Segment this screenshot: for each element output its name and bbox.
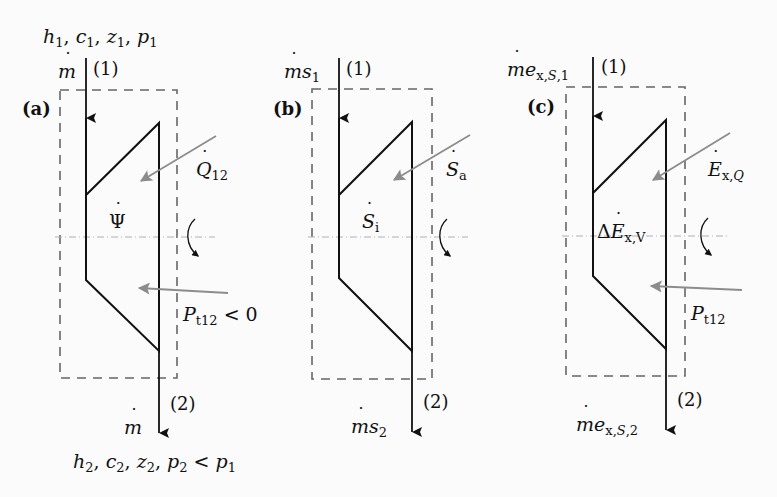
panel-a: [55, 58, 228, 433]
dissipation-label: Ψ: [109, 212, 126, 231]
outlet-mass-flow-label: m: [124, 418, 142, 437]
control-volume-box: [312, 89, 432, 379]
power-arrow: [651, 286, 742, 290]
outlet-state-label: h2, c2, z2, p2 < p1: [73, 452, 236, 474]
state-point-2: (2): [170, 395, 196, 413]
power-label: Pt12: [691, 304, 726, 326]
power-arrow: [139, 288, 228, 293]
panel-b-tag: (b): [273, 100, 303, 118]
entropy-transfer-label: Sa: [446, 160, 467, 182]
outlet-exergy-flow-label: mex,S,2: [576, 415, 638, 437]
panel-a-tag: (a): [22, 100, 51, 118]
state-point-1: (1): [601, 58, 627, 76]
exergy-loss-label: ΔEx,V: [597, 222, 645, 244]
state-point-1: (1): [346, 60, 372, 78]
outlet-entropy-flow-label: ms2: [351, 417, 387, 439]
inlet-mass-flow-label: m: [58, 62, 76, 81]
state-point-2: (2): [423, 393, 449, 411]
entropy-generation-label: Si: [362, 212, 379, 234]
panel-c-tag: (c): [527, 98, 555, 116]
state-point-1: (1): [93, 60, 119, 78]
heat-flow-label: Q12: [196, 160, 228, 182]
inlet-state-label: h1, c1, z1, p1: [43, 27, 158, 49]
state-point-2: (2): [677, 391, 703, 409]
exergy-heat-label: Ex,Q: [708, 160, 744, 182]
power-label: Pt12 < 0: [183, 305, 258, 327]
panel-b: [308, 58, 470, 432]
inlet-entropy-flow-label: ms1: [284, 62, 320, 84]
panel-c: [562, 57, 742, 430]
turbine-shape: [86, 118, 159, 351]
inlet-exergy-flow-label: mex,S,1: [507, 60, 569, 82]
